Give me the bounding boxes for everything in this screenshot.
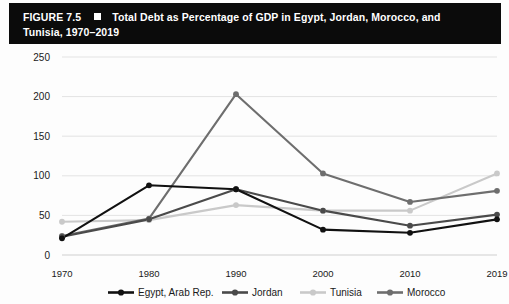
series-line-egypt-arab-rep [62,185,497,238]
figure-title-line-1: FIGURE 7.5Total Debt as Percentage of GD… [23,11,441,23]
figure-page: FIGURE 7.5Total Debt as Percentage of GD… [0,0,509,304]
figure-number-label: FIGURE 7.5 [23,11,81,23]
data-point [494,188,500,194]
x-axis-tick-label: 1990 [225,268,246,279]
data-point [233,202,239,208]
figure-title-bar: FIGURE 7.5Total Debt as Percentage of GD… [9,3,501,44]
figure-title-line-2: Tunisia, 1970–2019 [23,26,119,38]
data-point [494,216,500,222]
white-square-icon [94,13,101,20]
data-point [233,91,239,97]
line-chart: 050100150200250197019801990200020102019E… [0,44,509,304]
data-point [320,227,326,233]
x-axis-tick-label: 2019 [486,268,507,279]
legend-marker-0 [118,289,124,295]
figure-title-text-1: Total Debt as Percentage of GDP in Egypt… [112,11,440,23]
x-axis-tick-label: 1980 [138,268,159,279]
data-point [320,171,326,177]
series-line-morocco [62,94,497,236]
data-point [407,230,413,236]
y-axis-tick-label: 0 [44,250,50,261]
x-axis-tick-label: 2000 [312,268,333,279]
y-axis-tick-label: 150 [33,131,50,142]
x-axis-tick-label: 2010 [399,268,420,279]
legend-label: Morocco [407,287,446,298]
data-point [59,235,65,241]
legend-marker-2 [310,289,316,295]
data-point [494,171,500,177]
x-axis-tick-label: 1970 [51,268,72,279]
legend-label: Egypt, Arab Rep. [138,287,214,298]
y-axis-tick-label: 100 [33,170,50,181]
legend-marker-1 [232,289,238,295]
y-axis-tick-label: 50 [39,210,51,221]
legend-label: Jordan [252,287,283,298]
y-axis-tick-label: 250 [33,52,50,63]
data-point [407,199,413,205]
legend-label: Tunisia [330,287,362,298]
data-point [59,219,65,225]
data-point [407,223,413,229]
data-point [320,208,326,214]
chart-plot-area: 050100150200250197019801990200020102019E… [0,44,509,304]
data-point [407,208,413,214]
data-point [146,216,152,222]
y-axis-tick-label: 200 [33,91,50,102]
legend-marker-3 [387,289,393,295]
data-point [146,182,152,188]
data-point [233,186,239,192]
